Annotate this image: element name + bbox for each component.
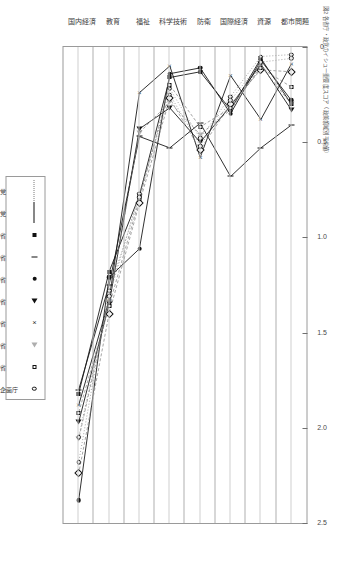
category-separator bbox=[92, 47, 93, 523]
legend-item: 経済企画庁 bbox=[27, 378, 41, 399]
category-separator bbox=[275, 47, 276, 523]
axis-tick bbox=[302, 142, 307, 143]
legend-item: 通産省 bbox=[27, 290, 41, 311]
legend-label: 厚生省 bbox=[0, 341, 38, 350]
axis-tick-label: 2.0 bbox=[312, 423, 332, 430]
legend-item: 労働省 bbox=[27, 268, 41, 289]
legend: 民社党自民党自治省建設省労働省通産省×農林省厚生省大蔵省経済企画庁 bbox=[5, 176, 45, 400]
legend-item: 建設省 bbox=[27, 246, 41, 267]
axis-tick-label: 2.5 bbox=[312, 519, 332, 526]
axis-tick-label: 1.0 bbox=[312, 233, 332, 240]
legend-item: 大蔵省 bbox=[27, 356, 41, 377]
legend-label: 通産省 bbox=[0, 297, 38, 306]
legend-item: ×農林省 bbox=[27, 312, 41, 333]
legend-item: 自民党 bbox=[27, 202, 41, 223]
category-baseline bbox=[290, 47, 291, 523]
category-separator bbox=[123, 47, 124, 523]
legend-item: 自治省 bbox=[27, 224, 41, 245]
axis-tick bbox=[302, 237, 307, 238]
category-separator bbox=[153, 47, 154, 523]
axis-tick-label: 0.5 bbox=[312, 138, 332, 145]
figure-root: 図2 各省庁・政党のイシュー重要度スコア（政策領域別平均値） ×××××××× … bbox=[0, 0, 337, 576]
axis-tick-label: 0 bbox=[312, 43, 332, 50]
axis-tick bbox=[302, 47, 307, 48]
legend-label: 建設省 bbox=[0, 253, 38, 262]
category-baseline bbox=[229, 47, 230, 523]
legend-item: 民社党 bbox=[27, 180, 41, 201]
legend-label: 自治省 bbox=[0, 231, 38, 240]
legend-label: 自民党 bbox=[0, 209, 38, 218]
category-baseline bbox=[199, 47, 200, 523]
category-separator bbox=[244, 47, 245, 523]
category-label: 国内経済 bbox=[58, 16, 104, 26]
legend-label: 労働省 bbox=[0, 275, 38, 284]
category-baseline bbox=[259, 47, 260, 523]
legend-item: 厚生省 bbox=[27, 334, 41, 355]
axis-tick bbox=[302, 428, 307, 429]
category-baseline bbox=[168, 47, 169, 523]
category-separator bbox=[184, 47, 185, 523]
figure-title: 図2 各省庁・政党のイシュー重要度スコア（政策領域別平均値） bbox=[322, 6, 329, 566]
axis-tick-label: 1.5 bbox=[312, 328, 332, 335]
legend-label: 民社党 bbox=[0, 187, 38, 196]
category-baseline bbox=[108, 47, 109, 523]
legend-label: 経済企画庁 bbox=[0, 385, 38, 394]
plot-area: ×××××××× bbox=[62, 46, 307, 524]
legend-label: 農林省 bbox=[0, 319, 38, 328]
category-baseline bbox=[77, 47, 78, 523]
category-baseline bbox=[138, 47, 139, 523]
legend-label: 大蔵省 bbox=[0, 363, 38, 372]
axis-tick bbox=[302, 523, 307, 524]
category-separator bbox=[214, 47, 215, 523]
axis-tick bbox=[302, 333, 307, 334]
